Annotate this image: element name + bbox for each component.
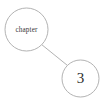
node-link-diagram: chapter 3 [0,0,100,107]
diagram-canvas: chapter 3 [0,0,100,107]
number-node-label: 3 [77,70,85,86]
edge-chapter-to-number [42,45,68,66]
chapter-node-label: chapter [15,26,38,34]
node-number[interactable]: 3 [62,60,99,97]
node-chapter[interactable]: chapter [5,8,48,51]
